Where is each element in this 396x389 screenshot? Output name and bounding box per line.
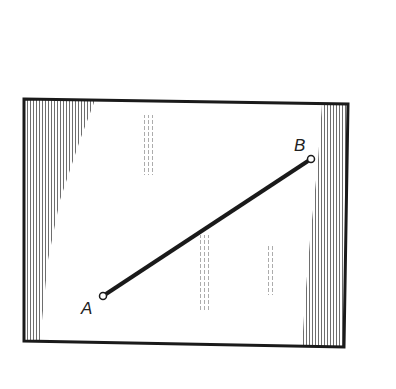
point-a-label: A [80,299,92,318]
point-b-marker [308,156,315,163]
point-a-marker [100,293,107,300]
diagram-canvas: A B [0,0,396,389]
point-b-label: B [294,136,305,155]
